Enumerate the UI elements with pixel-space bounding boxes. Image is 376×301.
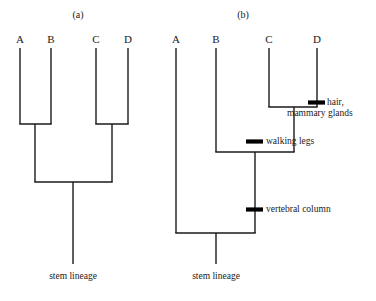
panel-b-branches xyxy=(175,48,317,264)
figure-canvas: (a) A B C D stem lineage (b) A B C D hai… xyxy=(0,0,376,301)
panel-b-taxon-label-A: A xyxy=(168,33,184,45)
panel-b-stem-lineage-label: stem lineage xyxy=(176,271,256,282)
tree-lines-layer xyxy=(0,0,376,301)
panel-a-taxon-label-D: D xyxy=(120,33,136,45)
panel-b-taxon-label-C: C xyxy=(261,33,277,45)
trait-label-walking-legs: walking legs xyxy=(266,136,314,147)
panel-a-taxon-label-C: C xyxy=(88,33,104,45)
panel-a-branches xyxy=(19,48,128,264)
trait-label-hair-mammary-glands-line1: hair, xyxy=(327,97,344,108)
trait-label-vertebral-column: vertebral column xyxy=(266,204,331,215)
panel-b-taxon-label-B: B xyxy=(208,33,224,45)
panel-a-taxon-label-A: A xyxy=(12,33,28,45)
panel-a-taxon-label-B: B xyxy=(43,33,59,45)
panel-a-caption: (a) xyxy=(64,9,92,20)
panel-b-caption: (b) xyxy=(229,9,257,20)
panel-b-taxon-label-D: D xyxy=(309,33,325,45)
panel-a-stem-lineage-label: stem lineage xyxy=(33,271,113,282)
trait-label-hair-mammary-glands-line2: mammary glands xyxy=(287,108,353,119)
